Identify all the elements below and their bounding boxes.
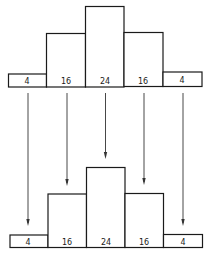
arrow-down-icon bbox=[104, 93, 107, 159]
bottom-bar-3 bbox=[87, 168, 126, 248]
top-histogram: 4 16 24 16 4 bbox=[9, 7, 203, 88]
arrow-down-icon bbox=[26, 93, 29, 226]
top-label-3: 24 bbox=[100, 77, 110, 86]
top-bar-3 bbox=[86, 7, 125, 88]
bottom-label-2: 16 bbox=[62, 238, 72, 247]
arrow-down-icon bbox=[65, 93, 68, 186]
bottom-histogram: 4 16 24 16 4 bbox=[10, 168, 203, 248]
top-label-5: 4 bbox=[179, 76, 184, 85]
bottom-label-5: 4 bbox=[180, 238, 185, 247]
top-label-1: 4 bbox=[24, 77, 29, 86]
bottom-label-3: 24 bbox=[101, 238, 111, 247]
top-label-2: 16 bbox=[61, 77, 71, 86]
top-label-4: 16 bbox=[138, 77, 148, 86]
arrow-down-icon bbox=[181, 93, 184, 226]
bottom-label-1: 4 bbox=[25, 238, 30, 247]
bottom-label-4: 16 bbox=[139, 238, 149, 247]
arrow-down-icon bbox=[142, 93, 145, 185]
histogram-transfer-diagram: 4 16 24 16 4 4 bbox=[0, 0, 218, 254]
